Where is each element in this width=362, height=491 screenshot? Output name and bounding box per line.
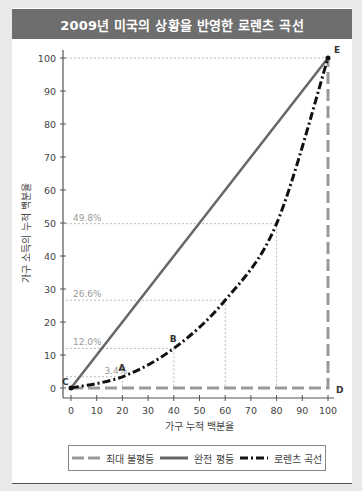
annotation-label: 12.0%: [73, 337, 102, 347]
legend: 최대 불평등 완전 평등 로렌츠 곡선: [68, 445, 326, 471]
x-axis-label: 가구 누적 백분율: [165, 421, 234, 432]
y-tick-label: 60: [44, 185, 56, 196]
point-label: B: [170, 334, 177, 344]
legend-item-max-inequality: 최대 불평등: [72, 451, 154, 466]
y-tick-label: 80: [44, 119, 56, 130]
point-c: [69, 386, 74, 391]
lorenz-chart: 0102030405060708090100010203040506070809…: [0, 0, 362, 491]
legend-item-lorenz-curve: 로렌츠 곡선: [240, 451, 322, 466]
x-tick-label: 90: [296, 405, 308, 416]
y-tick-label: 10: [44, 350, 56, 361]
y-tick-label: 30: [44, 284, 56, 295]
y-tick-label: 50: [44, 218, 56, 229]
x-tick-label: 10: [91, 405, 103, 416]
point-e: [326, 56, 331, 61]
x-tick-label: 50: [193, 405, 205, 416]
y-tick-label: 0: [50, 383, 56, 394]
divider: [12, 483, 352, 484]
point-label: C: [62, 377, 69, 387]
point-label: D: [336, 385, 343, 395]
x-tick-label: 70: [245, 405, 257, 416]
gray-dash-line-icon: [72, 455, 100, 461]
y-axis-label: 가구 소득의 누적 백분율: [21, 183, 32, 283]
annotation-label: 26.6%: [73, 289, 102, 299]
x-tick-label: 30: [142, 405, 154, 416]
y-tick-label: 70: [44, 152, 56, 163]
y-tick-label: 20: [44, 317, 56, 328]
point-label: E: [334, 45, 340, 55]
legend-item-perfect-equality: 완전 평등: [160, 451, 233, 466]
dash-dot-line-icon: [240, 455, 268, 461]
annotation-label: 49.8%: [73, 213, 102, 223]
y-tick-label: 100: [38, 53, 56, 64]
series-line: [71, 58, 328, 388]
legend-label: 최대 불평등: [106, 451, 154, 466]
x-tick-label: 80: [271, 405, 283, 416]
x-tick-label: 40: [168, 405, 180, 416]
legend-label: 완전 평등: [194, 451, 233, 466]
x-tick-label: 60: [219, 405, 231, 416]
x-tick-label: 0: [68, 405, 74, 416]
y-tick-label: 90: [44, 86, 56, 97]
x-tick-label: 100: [319, 405, 337, 416]
x-tick-label: 20: [116, 405, 128, 416]
legend-label: 로렌츠 곡선: [274, 451, 322, 466]
solid-line-icon: [160, 455, 188, 461]
point-label: A: [118, 363, 125, 373]
y-tick-label: 40: [44, 251, 56, 262]
